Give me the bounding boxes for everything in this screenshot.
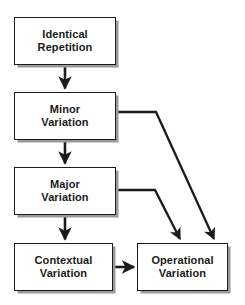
edge-minor-to-operational [101,112,214,239]
node-minor-variation[interactable]: Minor Variation [14,92,116,140]
diagram-canvas: Identical Repetition Minor Variation Maj… [0,0,245,305]
node-label: Minor Variation [38,103,91,130]
node-label: Identical Repetition [35,28,96,55]
node-label: Contextual Variation [32,254,96,281]
node-label: Major Variation [38,178,91,205]
node-label: Operational Variation [148,254,216,281]
node-contextual-variation[interactable]: Contextual Variation [14,243,113,291]
node-major-variation[interactable]: Major Variation [14,167,116,215]
node-operational-variation[interactable]: Operational Variation [137,243,228,291]
node-identical-repetition[interactable]: Identical Repetition [14,17,116,65]
